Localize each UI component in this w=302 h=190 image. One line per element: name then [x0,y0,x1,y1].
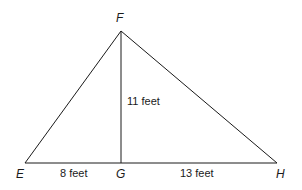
vertex-label-G: G [116,167,125,181]
measurement-FG: 11 feet [127,95,160,107]
vertex-label-F: F [116,11,123,25]
segment-EF [25,31,121,163]
measurement-GH: 13 feet [180,167,214,179]
measurement-EG: 8 feet [60,167,88,179]
vertex-label-H: H [276,167,285,181]
vertex-label-E: E [16,167,24,181]
